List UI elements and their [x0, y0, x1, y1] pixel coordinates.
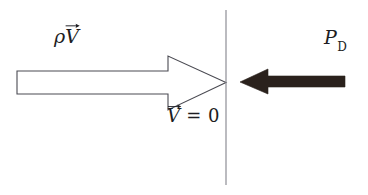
p-subscript-d-label: PD [324, 28, 347, 51]
rho-symbol: ρ [54, 25, 65, 47]
v-symbol: V [167, 107, 180, 125]
rho-v-vector-label: ρV [54, 27, 79, 46]
v-vector-equals-zero-label: V = 0 [167, 107, 220, 125]
solid-left-arrow [240, 69, 345, 94]
v-vector-glyph-stagnation: V [167, 107, 180, 125]
v-vector-glyph: V [65, 27, 79, 46]
p-symbol: P [324, 26, 337, 48]
equals-zero-text: = 0 [180, 105, 220, 126]
p-subscript: D [337, 40, 347, 54]
figure-canvas: ρV PD V = 0 [0, 0, 368, 195]
hollow-right-arrow [17, 56, 226, 110]
v-symbol: V [65, 27, 79, 46]
